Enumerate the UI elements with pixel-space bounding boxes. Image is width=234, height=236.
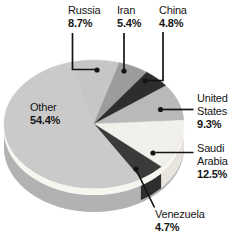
- label-china: China 4.8%: [159, 4, 187, 30]
- label-saudi-arabia-name-2: Arabia: [197, 155, 228, 168]
- label-other-name: Other: [30, 101, 60, 114]
- label-united-states-name-1: United: [197, 92, 228, 105]
- label-other-value: 54.4%: [30, 114, 60, 127]
- label-saudi-arabia-name-1: Saudi: [197, 142, 228, 155]
- label-china-value: 4.8%: [159, 17, 187, 30]
- label-united-states-name-2: States: [197, 105, 228, 118]
- leader-dot-iran: [121, 68, 126, 73]
- label-saudi-arabia-value: 12.5%: [197, 168, 228, 181]
- label-saudi-arabia: Saudi Arabia 12.5%: [197, 142, 228, 181]
- leader-dot-china: [142, 78, 147, 83]
- leader-dot-united-states: [158, 107, 163, 112]
- pie-chart-figure: Russia 8.7% Iran 5.4% China 4.8% United …: [0, 0, 234, 236]
- label-russia-value: 8.7%: [68, 17, 100, 30]
- label-russia-name: Russia: [68, 4, 100, 17]
- label-iran-name: Iran: [117, 4, 141, 17]
- label-venezuela-value: 4.7%: [155, 221, 205, 234]
- label-iran: Iran 5.4%: [117, 4, 141, 30]
- label-united-states-value: 9.3%: [197, 118, 228, 131]
- leader-dot-russia: [94, 67, 99, 72]
- label-china-name: China: [159, 4, 187, 17]
- label-russia: Russia 8.7%: [68, 4, 100, 30]
- label-venezuela: Venezuela 4.7%: [155, 208, 205, 234]
- label-other: Other 54.4%: [30, 101, 60, 127]
- label-iran-value: 5.4%: [117, 17, 141, 30]
- leader-dot-saudi-arabia: [150, 150, 155, 155]
- label-united-states: United States 9.3%: [197, 92, 228, 131]
- label-venezuela-name: Venezuela: [155, 208, 205, 221]
- leader-dot-venezuela: [133, 166, 138, 171]
